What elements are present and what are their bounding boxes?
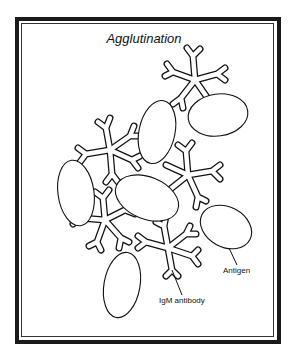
antigen-icon [193, 197, 259, 258]
antigen-icon [99, 249, 146, 320]
igm-antibody-icon [138, 216, 198, 276]
antigen-icon [185, 90, 250, 140]
antigen-label: Antigen [223, 266, 250, 275]
antigen-leader-line [229, 248, 237, 265]
agglutination-diagram [0, 0, 288, 359]
antigen-icon [109, 166, 186, 230]
igm-antibody-label: IgM antibody [159, 296, 205, 305]
